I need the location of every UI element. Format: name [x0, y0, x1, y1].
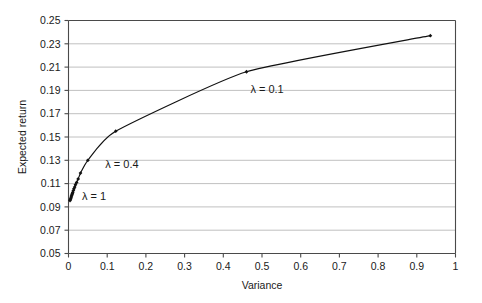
y-tick-label: 0.07	[40, 224, 61, 236]
x-tick-label: 0.3	[177, 260, 192, 272]
y-tick-label: 0.13	[40, 154, 61, 166]
y-tick-label: 0.17	[40, 107, 61, 119]
x-tick-label: 0.9	[409, 260, 424, 272]
y-axis-title: Expected return	[16, 100, 28, 174]
y-tick-label: 0.19	[40, 84, 61, 96]
chart-canvas: 00.10.20.30.40.50.60.70.80.91 0.050.070.…	[0, 0, 482, 303]
y-tick-label: 0.23	[40, 38, 61, 50]
x-tick-label: 0.1	[100, 260, 115, 272]
y-tick-label: 0.25	[40, 14, 61, 26]
lambda-annotation-label: λ = 0.4	[105, 158, 138, 170]
x-tick-label: 1	[453, 260, 459, 272]
x-axis-title: Variance	[242, 279, 283, 291]
chart-background	[0, 0, 482, 303]
x-tick-label: 0	[66, 260, 72, 272]
x-tick-label: 0.5	[255, 260, 270, 272]
chart-figure: 00.10.20.30.40.50.60.70.80.91 0.050.070.…	[0, 0, 482, 303]
x-tick-label: 0.4	[216, 260, 231, 272]
x-tick-label: 0.6	[293, 260, 308, 272]
x-tick-label: 0.7	[332, 260, 347, 272]
y-tick-label: 0.09	[40, 201, 61, 213]
lambda-annotation-label: λ = 1	[82, 190, 106, 202]
y-tick-label: 0.15	[40, 131, 61, 143]
y-tick-label: 0.05	[40, 247, 61, 259]
y-tick-label: 0.21	[40, 61, 61, 73]
y-tick-label: 0.11	[41, 177, 61, 189]
x-tick-label: 0.8	[371, 260, 386, 272]
x-tick-label: 0.2	[139, 260, 154, 272]
lambda-annotation-label: λ = 0.1	[250, 83, 283, 95]
